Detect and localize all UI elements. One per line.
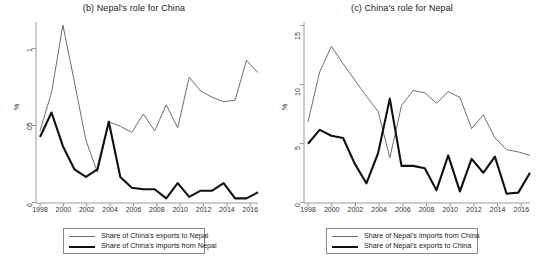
chart-panel-b: (b) Nepal's role for China % 0 .05 1 — [0, 0, 268, 268]
legend-item-c-imports: Share of Nepal's imports from China — [332, 231, 472, 241]
legend-label-c-imports: Share of Nepal's imports from China — [364, 231, 480, 241]
legend-line-thick-icon — [69, 241, 95, 251]
x-tick-c-2016: 2016 — [507, 206, 535, 213]
legend-item-b-imports: Share of China's imports from Nepal — [69, 241, 199, 251]
series-line-c-imports — [308, 46, 530, 157]
chart-panel-c: (c) China's role for Nepal % 0 5 10 15 — [268, 0, 536, 268]
legend-item-b-exports: Share of China's exports to Nepal — [69, 231, 199, 241]
legend-panel-b: Share of China's exports to Nepal Share … — [63, 228, 205, 254]
legend-line-thin-icon — [69, 231, 95, 241]
legend-panel-c: Share of Nepal's imports from China Shar… — [326, 228, 478, 254]
series-line-c-exports — [308, 99, 530, 194]
legend-line-thin-icon — [332, 231, 358, 241]
figure-container: (b) Nepal's role for China % 0 .05 1 — [0, 0, 536, 268]
x-tick-b-2016: 2016 — [236, 206, 264, 213]
series-line-b-exports — [40, 25, 258, 172]
legend-line-thick-icon — [332, 241, 358, 251]
legend-item-c-exports: Share of Nepal's exports to China — [332, 241, 472, 251]
series-line-b-imports — [40, 113, 258, 199]
legend-label-b-imports: Share of China's imports from Nepal — [101, 241, 217, 251]
legend-label-b-exports: Share of China's exports to Nepal — [101, 231, 208, 241]
legend-label-c-exports: Share of Nepal's exports to China — [364, 241, 471, 251]
